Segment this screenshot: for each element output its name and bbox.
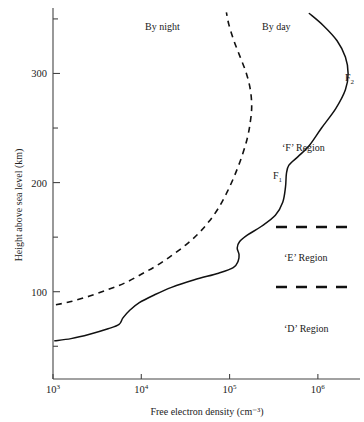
y-axis-ticks: 100200300 <box>31 19 60 346</box>
by-night-label: By night <box>145 21 180 32</box>
x-tick-label-1: 104 <box>134 383 149 395</box>
curve-by-day <box>55 13 348 340</box>
d-region-label: ‘D’ Region <box>284 323 329 334</box>
chart-svg: 103104105106 100200300 By nightBy dayF2‘… <box>0 0 364 422</box>
y-tick-label-1: 200 <box>31 178 47 189</box>
curve-by-night <box>56 12 252 304</box>
y-tick-label-0: 100 <box>31 287 47 298</box>
data-series-group <box>55 12 348 340</box>
f1-label: F1 <box>273 170 283 184</box>
x-tick-label-3: 106 <box>311 383 326 395</box>
f-region-label: ‘F’ Region <box>282 142 325 153</box>
by-day-label: By day <box>262 21 291 32</box>
y-tick-label-2: 300 <box>31 68 47 79</box>
x-tick-label-2: 105 <box>223 383 238 395</box>
y-axis-title: Height above sea level (km) <box>13 149 25 262</box>
ionosphere-electron-density-chart: 103104105106 100200300 By nightBy dayF2‘… <box>0 0 364 422</box>
x-tick-label-0: 103 <box>46 383 61 395</box>
e-region-label: ‘E’ Region <box>284 252 327 263</box>
x-axis-title: Free electron density (cm⁻³) <box>150 406 263 418</box>
x-axis-ticks: 103104105106 <box>46 374 325 395</box>
